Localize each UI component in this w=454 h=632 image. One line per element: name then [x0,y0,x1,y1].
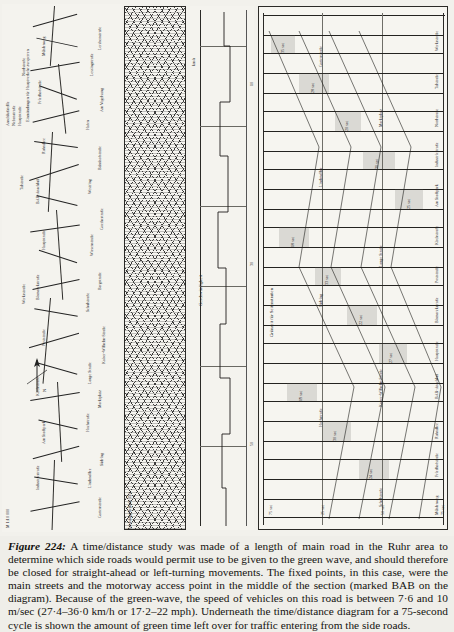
compass-rose [24,358,50,402]
map-scale-label: M 1:10 000 [6,509,10,528]
map-legend-item: Hauptstraße [18,106,22,126]
map-road-label: Goethestraße [100,208,104,230]
green-street-label: Friedhofstraße [435,453,439,477]
compass-north-label: N [42,389,47,392]
map-panel: Lerchenstraße Lessingstraße Am Vogelsang… [2,4,122,532]
figure-image: Lerchenstraße Lessingstraße Am Vogelsang… [0,0,454,536]
map-road-label: Hochstraße [86,413,90,432]
map-road-label: Lessingstraße [90,53,94,76]
green-band-label: 19 sec [299,391,303,401]
map-legend-item: Nebenstraße [12,105,16,126]
green-street-label: Talstraße [435,74,439,89]
green-panel-title: Grünzeit für Seitenstraßen [269,288,274,337]
map-legend-item: Anschlußstelle [6,101,10,126]
green-band-label: 25 sec [407,199,411,209]
map-road-label: Hauptstraße [42,230,46,250]
map-road-label: Kaiser-Wilhelm-Straße [102,326,106,364]
green-band-label: 24 sec [369,469,373,479]
green-street-label: Mühlenweg [435,496,439,516]
green-street-label: Marktplatz [379,109,383,127]
map-road-label: Ruhrallee [42,138,46,154]
green-street-label: Kaiser-Wilhelm-Straße [379,369,383,407]
time-mark-label: 50 sec [381,505,385,515]
green-street-label: Lindenallee [319,168,323,187]
cycle-label: 75 sec [269,505,273,515]
green-street-label: Ruhrallee [435,423,439,439]
map-road-label: Am Vogelsang [100,88,104,112]
figure-number: Figure 224: [8,540,66,552]
map-road-label: Talstraße [20,175,24,190]
map-road-label: Schulstraße [86,293,90,312]
map-road-label: Wiesenstraße [90,234,94,256]
map-legend-item: Einmündungen für Hauptverkehr zu sperren [26,49,30,122]
speed-tick-label: 50 [250,442,254,446]
speed-tick-label: 10 [250,82,254,86]
green-band-label: 27 sec [389,353,393,363]
speed-axis-title: Geschwindigkeit [198,275,203,306]
green-street-label: Bismarckstraße [435,297,439,323]
green-street-label: Gartenstraße [319,46,323,67]
map-road-label: Bahnhofstraße [98,146,102,170]
green-band-label: 20 sec [345,121,349,131]
green-band-label: 22 sec [359,315,363,325]
map-road-label: Bismarckstraße [36,274,40,300]
green-band-label: 30 sec [333,431,337,441]
map-road-label: Werksstraße [22,284,26,304]
map-road-label: BAB-Anschluß [36,179,40,204]
speed-unit-label: km/h [192,58,196,66]
green-street-label: Am Stadtpark [435,184,439,207]
speed-diagram-panel: Geschwindigkeit 10 30 50 km/h [190,6,254,530]
map-road-label: Bergstraße [98,272,102,290]
green-band-label: 31 sec [375,159,379,169]
map-road-label: Mühlenweg [42,37,46,57]
green-street-label: Werksstraße [435,31,439,51]
figure-caption: Figure 224: A time/distance study was ma… [8,540,448,628]
map-road-label: Südring [100,453,104,466]
green-band-label: 33 sec [325,275,329,285]
green-street-label: Südring [319,294,323,307]
green-street-label: Hochstraße [319,408,323,427]
map-road-label: Gartenstraße [98,497,102,518]
green-street-label: Kirchstraße [435,226,439,245]
green-street-label: Nordstraße [435,109,439,127]
built-up-density-panel [124,6,186,530]
bottom-axis-label: Bebauung Verkehr Zeit [128,492,132,530]
map-road-label: Hafen [86,120,90,130]
map-road-label: Industriestraße [36,465,40,490]
map-road-label: Lange Straße [88,362,92,384]
green-street-label: BAB-Anschluß [435,374,439,399]
green-street-label: Hauptstraße [435,341,439,361]
green-band-label: 18 sec [291,237,295,247]
time-mark-label: 25 sec [321,505,325,515]
speed-tick-label: 30 [250,262,254,266]
map-road-label: Friedhofstraße [38,80,42,104]
map-road-label: Lerchenstraße [98,27,102,50]
figure-page: Lerchenstraße Lessingstraße Am Vogelsang… [0,0,454,632]
map-road-label: Lindenallee [88,469,92,488]
map-road-label: Am Stadtpark [42,421,46,444]
map-road-label: Marktplatz [98,390,102,408]
time-distance-diagram: 35 sec 28 sec 20 sec 31 sec 25 sec 18 se… [258,6,448,530]
green-street-label: Lange Straße [379,245,383,267]
map-road-label: Westring [88,179,92,194]
green-band-label: 28 sec [311,83,315,93]
time-mark-label: 75 sec [441,505,445,515]
green-band-label: 35 sec [281,43,285,53]
map-road-label: Poststraße [42,329,46,346]
figure-caption-text: A time/distance study was made of a leng… [8,540,448,631]
density-hatching [125,7,185,529]
green-street-label: Poststraße [435,266,439,283]
green-street-label: Industriestraße [435,142,439,167]
